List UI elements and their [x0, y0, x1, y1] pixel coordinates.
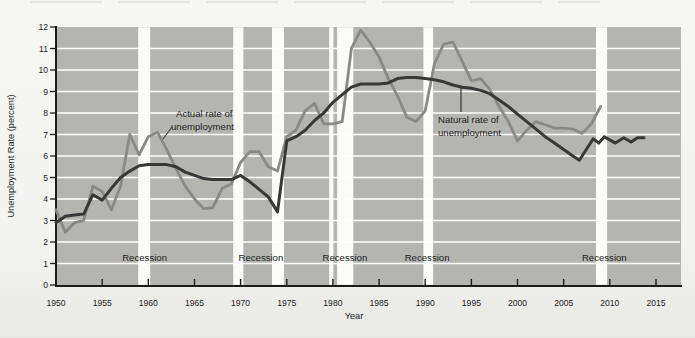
recession-label: Recession — [405, 252, 450, 263]
x-tick-label: 1985 — [370, 298, 389, 308]
x-tick-label: 1995 — [462, 298, 481, 308]
unemployment-chart: 1950195519601965197019751980198519901995… — [0, 0, 695, 338]
y-tick-label: 11 — [39, 44, 48, 54]
y-tick-label: 9 — [43, 87, 48, 97]
x-axis-title: Year — [345, 311, 364, 321]
y-tick-label: 3 — [43, 216, 48, 226]
x-tick-label: 2005 — [554, 298, 573, 308]
y-tick-label: 4 — [43, 194, 48, 204]
recession-label: Recession — [323, 252, 368, 263]
natural-rate-annotation-line2: unemployment — [438, 127, 501, 138]
actual-rate-annotation-line1: Actual rate of — [176, 108, 233, 119]
x-tick-label: 1975 — [277, 298, 296, 308]
x-tick-label: 1990 — [416, 298, 435, 308]
y-tick-label: 8 — [43, 108, 48, 118]
y-tick-label: 1 — [43, 259, 48, 269]
y-tick-label: 10 — [38, 65, 48, 75]
x-tick-label: 1965 — [185, 298, 204, 308]
x-tick-label: 2010 — [600, 298, 619, 308]
figure-page: 1950195519601965197019751980198519901995… — [0, 0, 695, 338]
recession-label: Recession — [582, 252, 627, 263]
y-tick-label: 5 — [43, 173, 48, 183]
x-tick-label: 1955 — [93, 298, 112, 308]
recession-label: Recession — [122, 252, 167, 263]
chart-canvas: 1950195519601965197019751980198519901995… — [38, 22, 682, 308]
x-tick-label: 1980 — [323, 298, 342, 308]
x-tick-label: 1950 — [46, 298, 65, 308]
natural-rate-annotation-line1: Natural rate of — [438, 114, 499, 125]
x-tick-label: 2015 — [646, 298, 665, 308]
y-tick-label: 2 — [43, 237, 48, 247]
x-tick-label: 1970 — [231, 298, 250, 308]
y-tick-label: 0 — [43, 280, 48, 290]
y-tick-label: 12 — [38, 22, 48, 32]
x-tick-label: 2000 — [508, 298, 527, 308]
actual-rate-annotation-line2: unemployment — [171, 121, 234, 132]
y-axis-title: Unemployment Rate (percent) — [6, 94, 16, 217]
recession-label: Recession — [239, 252, 284, 263]
y-tick-label: 6 — [43, 151, 48, 161]
y-tick-label: 7 — [43, 130, 48, 140]
x-tick-label: 1960 — [139, 298, 158, 308]
